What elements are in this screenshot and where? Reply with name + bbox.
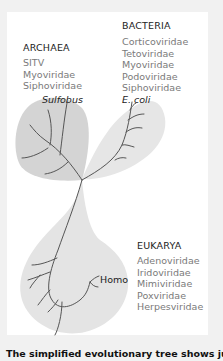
eukarya-organism-label: Homo	[100, 274, 128, 285]
virus-item: Corticoviridae	[122, 36, 188, 48]
virus-item: Myoviridae	[23, 69, 82, 81]
virus-item: Myoviridae	[122, 59, 188, 71]
virus-item: Adenoviridae	[137, 255, 203, 267]
virus-item: Poxviridae	[137, 290, 203, 302]
virus-item: Mimiviridae	[137, 278, 203, 290]
bacteria-title: BACTERIA	[122, 20, 171, 31]
virus-item: Tetoviridae	[122, 48, 188, 60]
archaea-virus-list: SITV Myoviridae Siphoviridae	[23, 57, 82, 92]
bacteria-organism-label: E. coli	[122, 94, 150, 105]
archaea-title: ARCHAEA	[23, 42, 70, 53]
archaea-lobe	[15, 98, 88, 181]
virus-item: SITV	[23, 57, 82, 69]
virus-item: Iridoviridae	[137, 267, 203, 279]
bacteria-virus-list: Corticoviridae Tetoviridae Myoviridae Po…	[122, 36, 188, 94]
eukarya-lobe	[20, 180, 128, 333]
virus-item: Siphoviridae	[122, 82, 188, 94]
virus-item: Herpesviridae	[137, 301, 203, 313]
virus-item: Podoviridae	[122, 71, 188, 83]
figure-caption: The simplified evolutionary tree shows j…	[6, 348, 223, 359]
virus-item: Siphoviridae	[23, 80, 82, 92]
eukarya-virus-list: Adenoviridae Iridoviridae Mimiviridae Po…	[137, 255, 203, 313]
archaea-organism-label: Sulfobus	[42, 94, 83, 105]
eukarya-title: EUKARYA	[137, 240, 181, 251]
